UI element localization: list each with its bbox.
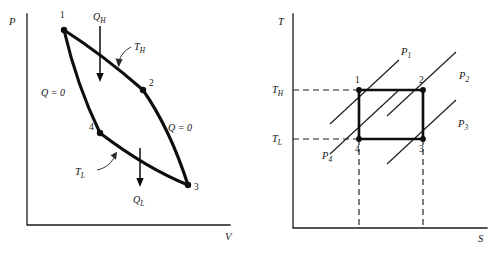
heat-in-arrow-head xyxy=(96,73,103,82)
pv-state-point-3 xyxy=(185,182,191,188)
pv-diagram-panel: P V 1 2 3 4 QH xyxy=(8,10,233,242)
heat-in-label: QH xyxy=(93,11,106,25)
ts-y-axis-label: T xyxy=(278,16,285,27)
pv-x-axis-label: V xyxy=(225,231,233,242)
adiabatic-right-label: Q = 0 xyxy=(168,122,192,133)
pv-curve-4-1-adiabatic xyxy=(64,30,100,133)
isotherm-low-label: TL xyxy=(75,166,85,180)
isobar-p4-line xyxy=(330,90,399,154)
adiabatic-left-label: Q = 0 xyxy=(41,87,65,98)
ts-state-point-3 xyxy=(420,136,426,142)
pv-axes xyxy=(27,14,230,225)
ts-x-axis-label: S xyxy=(478,233,484,244)
isotherm-low-leader xyxy=(97,158,114,170)
pv-y-axis-label: P xyxy=(8,16,16,27)
pv-curve-1-2-isotherm-high xyxy=(64,30,143,90)
ts-tick-label-th: TH xyxy=(272,84,284,98)
isobar-p4-label: P4 xyxy=(321,150,332,164)
isotherm-low-leader-group xyxy=(97,152,117,170)
thermodynamic-cycle-figure: P V 1 2 3 4 QH xyxy=(0,0,497,253)
pv-state-point-2 xyxy=(140,87,146,93)
pv-state-label-2: 2 xyxy=(149,78,154,88)
ts-state-label-1: 1 xyxy=(355,75,360,85)
pv-state-label-4: 4 xyxy=(89,122,94,132)
ts-tick-label-tl: TL xyxy=(272,133,282,147)
isobar-p3-line xyxy=(387,100,456,164)
isotherm-high-leader-group xyxy=(116,47,131,67)
heat-out-arrow-group xyxy=(136,148,143,187)
pv-curve-2-3-adiabatic xyxy=(143,90,188,185)
ts-state-label-2: 2 xyxy=(419,75,424,85)
pv-state-point-4 xyxy=(97,130,103,136)
heat-out-label: QL xyxy=(133,194,144,208)
heat-out-arrow-head xyxy=(136,178,143,187)
isobar-p2-label: P2 xyxy=(458,70,469,84)
ts-state-label-3: 3 xyxy=(419,144,424,154)
ts-state-label-4: 4 xyxy=(355,144,360,154)
ts-diagram-panel: T S 1 2 3 4 TH xyxy=(272,14,487,244)
figure-canvas: P V 1 2 3 4 QH xyxy=(0,0,497,253)
pv-state-label-1: 1 xyxy=(60,10,65,20)
ts-state-point-1 xyxy=(356,87,362,93)
ts-state-point-2 xyxy=(420,87,426,93)
pv-state-point-1 xyxy=(61,27,67,33)
pv-state-label-3: 3 xyxy=(194,182,199,192)
isotherm-high-label: TH xyxy=(134,41,146,55)
ts-state-point-4 xyxy=(356,136,362,142)
isobar-p3-label: P3 xyxy=(457,118,468,132)
isobar-p1-label: P1 xyxy=(400,46,411,60)
